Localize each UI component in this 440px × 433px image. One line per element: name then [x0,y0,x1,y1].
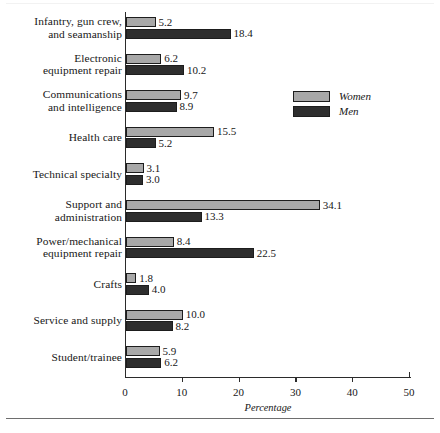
category-label-line: Technical specialty [2,168,122,181]
bar-women-4 [126,163,144,173]
bar-value-men-6: 22.5 [257,248,276,259]
category-label-9: Student/trainee [2,351,122,364]
bar-women-2 [126,90,181,100]
category-label-line: equipment repair [2,64,122,77]
category-label-line: Infantry, gun crew, [2,15,122,28]
legend-swatch-women [293,91,330,102]
x-tick-label-30: 30 [275,386,315,398]
bar-value-men-0: 18.4 [234,28,253,39]
bar-value-women-5: 34.1 [323,200,342,211]
category-label-2: Communicationsand intelligence [2,88,122,113]
bar-men-7 [126,285,149,295]
x-axis-title: Percentage [125,402,411,413]
bar-women-7 [126,273,136,283]
bar-men-1 [126,65,184,75]
bar-value-women-8: 10.0 [186,309,205,320]
category-label-line: Electronic [2,52,122,65]
category-label-3: Health care [2,131,122,144]
x-tick-50 [409,372,410,377]
x-tick-10 [182,377,183,382]
legend-label-women: Women [339,90,371,102]
x-axis-line [125,377,411,378]
x-tick-20 [239,377,240,382]
bar-value-men-5: 13.3 [205,211,224,222]
chart-legend: WomenMen [293,90,411,120]
bar-men-5 [126,212,202,222]
bar-women-3 [126,127,214,137]
bar-men-4 [126,175,143,185]
x-tick-30 [295,377,296,382]
category-label-1: Electronicequipment repair [2,52,122,77]
category-label-4: Technical specialty [2,168,122,181]
category-label-6: Power/mechanicalequipment repair [2,235,122,260]
bar-value-men-9: 6.2 [164,357,178,368]
x-tick-0 [125,372,126,377]
bar-value-women-9: 5.9 [163,346,177,357]
x-tick-40 [352,377,353,382]
x-tick-label-50: 50 [389,386,429,398]
category-label-5: Support andadministration [2,198,122,223]
x-tick-label-10: 10 [162,386,202,398]
category-label-7: Crafts [2,278,122,291]
bar-men-9 [126,358,161,368]
legend-item-women: Women [293,90,411,105]
bottom-divider-rule [6,418,434,419]
category-label-line: Support and [2,198,122,211]
bar-value-women-7: 1.8 [139,273,153,284]
bar-men-3 [126,138,156,148]
category-label-line: Communications [2,88,122,101]
category-label-line: administration [2,211,122,224]
bar-women-9 [126,346,160,356]
bar-value-men-2: 8.9 [180,101,194,112]
bar-men-8 [126,321,173,331]
category-label-8: Service and supply [2,314,122,327]
bar-women-8 [126,310,183,320]
bar-value-men-1: 10.2 [187,65,206,76]
category-label-line: Student/trainee [2,351,122,364]
category-label-0: Infantry, gun crew,and seamanship [2,15,122,40]
category-label-line: Crafts [2,278,122,291]
legend-item-men: Men [293,105,411,120]
bar-women-5 [126,200,320,210]
bar-value-men-8: 8.2 [176,321,190,332]
bar-value-women-0: 5.2 [159,17,173,28]
bar-value-women-2: 9.7 [184,90,198,101]
chart-container: Infantry, gun crew,and seamanshipElectro… [0,0,440,433]
category-label-line: Health care [2,131,122,144]
x-tick-label-20: 20 [219,386,259,398]
bar-women-1 [126,54,161,64]
bar-men-0 [126,29,231,39]
top-divider-rule [6,3,434,4]
bar-value-men-7: 4.0 [152,284,166,295]
category-label-line: and intelligence [2,101,122,114]
category-label-line: Power/mechanical [2,235,122,248]
category-label-line: Service and supply [2,314,122,327]
category-label-line: equipment repair [2,247,122,260]
x-tick-label-0: 0 [105,386,145,398]
bar-men-2 [126,102,177,112]
legend-swatch-men [293,106,330,117]
bar-men-6 [126,248,254,258]
plot-area: 5.218.46.210.29.78.915.55.23.13.034.113.… [125,12,411,380]
category-label-line: and seamanship [2,28,122,41]
bar-women-0 [126,17,156,27]
bar-value-men-3: 5.2 [159,138,173,149]
bar-value-women-1: 6.2 [164,53,178,64]
bar-women-6 [126,237,174,247]
bar-value-women-3: 15.5 [217,126,236,137]
bar-value-men-4: 3.0 [146,174,160,185]
bar-value-women-6: 8.4 [177,236,191,247]
bar-value-women-4: 3.1 [147,163,161,174]
legend-label-men: Men [339,105,359,117]
x-tick-label-40: 40 [332,386,372,398]
